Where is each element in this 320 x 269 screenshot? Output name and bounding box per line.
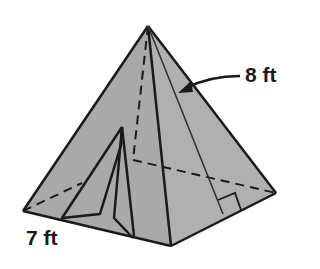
slant-height-label: 8 ft — [245, 63, 277, 87]
left-face — [23, 26, 171, 246]
base-edge-label: 7 ft — [26, 226, 58, 250]
